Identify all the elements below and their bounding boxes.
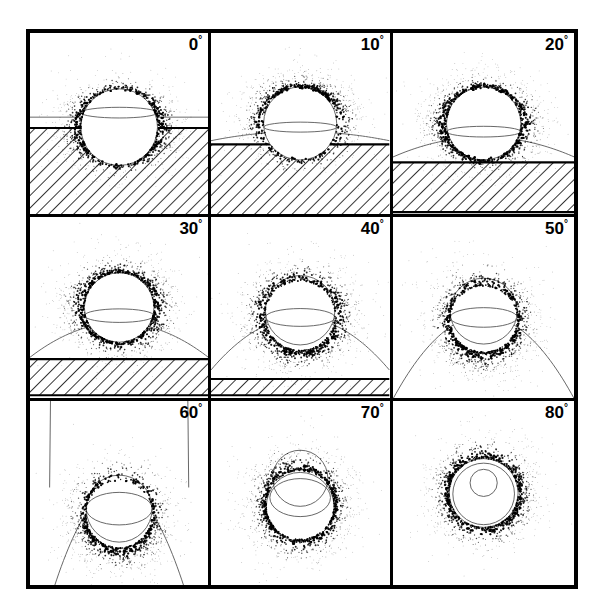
panel-angle-value: 0 [189, 35, 198, 54]
panel-label-20: 20° [545, 35, 568, 53]
panel-angle-value: 70 [361, 403, 380, 422]
panel-label-50: 50° [545, 219, 568, 237]
body-circle [81, 89, 158, 166]
panel-angle-value: 20 [545, 35, 564, 54]
panel-label-0: 0° [189, 35, 202, 53]
degree-symbol-icon: ° [564, 402, 568, 413]
degree-symbol-icon: ° [564, 218, 568, 229]
panel-angle-value: 50 [545, 219, 564, 238]
panel-plot-0 [30, 33, 208, 214]
panel-plot-80 [393, 401, 574, 585]
panel-label-10: 10° [361, 35, 384, 53]
body-circle [266, 275, 336, 344]
panel-50deg[interactable]: 50° [393, 217, 574, 401]
panel-plot-70 [211, 401, 389, 585]
panel-plot-50 [393, 217, 574, 398]
panel-0deg[interactable]: 0° [30, 33, 211, 217]
panel-plot-30 [30, 217, 208, 398]
panel-plot-40 [211, 217, 389, 398]
panel-angle-value: 40 [361, 219, 380, 238]
hatched-region [393, 162, 574, 212]
panel-plot-20 [393, 33, 574, 214]
panel-40deg[interactable]: 40° [211, 217, 392, 401]
panel-70deg[interactable]: 70° [211, 401, 392, 585]
degree-symbol-icon: ° [380, 34, 384, 45]
degree-symbol-icon: ° [380, 218, 384, 229]
panel-angle-value: 30 [179, 219, 198, 238]
panel-label-70: 70° [361, 403, 384, 421]
degree-symbol-icon: ° [564, 34, 568, 45]
panel-label-40: 40° [361, 219, 384, 237]
panel-label-60: 60° [179, 403, 202, 421]
panel-angle-value: 10 [361, 35, 380, 54]
panel-20deg[interactable]: 20° [393, 33, 574, 217]
degree-symbol-icon: ° [380, 402, 384, 413]
panel-60deg[interactable]: 60° [30, 401, 211, 585]
hatched-region [30, 359, 208, 395]
panel-angle-value: 60 [179, 403, 198, 422]
panel-plot-60 [30, 401, 208, 585]
panel-plot-10 [211, 33, 389, 214]
panel-10deg[interactable]: 10° [211, 33, 392, 217]
degree-symbol-icon: ° [198, 218, 202, 229]
panel-label-80: 80° [545, 403, 568, 421]
figure-frame: 0°10°20°30°40°50°60°70°80° [26, 29, 578, 589]
hatched-region [211, 379, 389, 395]
panel-grid: 0°10°20°30°40°50°60°70°80° [30, 33, 574, 585]
panel-angle-value: 80 [545, 403, 564, 422]
degree-symbol-icon: ° [198, 402, 202, 413]
panel-label-30: 30° [179, 219, 202, 237]
panel-80deg[interactable]: 80° [393, 401, 574, 585]
degree-symbol-icon: ° [198, 34, 202, 45]
panel-30deg[interactable]: 30° [30, 217, 211, 401]
